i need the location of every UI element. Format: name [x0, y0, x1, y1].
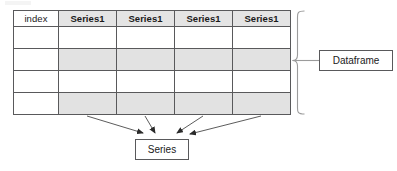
- data-cell: [233, 27, 291, 49]
- data-cell: [233, 49, 291, 71]
- dataframe-label-text: Dataframe: [333, 56, 380, 66]
- data-cell: [175, 49, 233, 71]
- index-cell: [14, 49, 59, 71]
- data-cell: [117, 49, 175, 71]
- data-cell: [59, 71, 117, 93]
- series-arrows: [87, 116, 261, 134]
- dataframe-table: index Series1 Series1 Series1 Series1: [13, 10, 291, 115]
- column-header-series-4: Series1: [233, 11, 291, 27]
- table-row: [14, 71, 291, 93]
- index-cell: [14, 27, 59, 49]
- series-label-text: Series: [148, 145, 176, 155]
- series-arrow-2: [145, 116, 155, 133]
- data-cell: [59, 93, 117, 115]
- data-cell: [233, 93, 291, 115]
- index-cell: [14, 93, 59, 115]
- dataframe-series-diagram: index Series1 Series1 Series1 Series1: [0, 0, 397, 171]
- data-cell: [117, 93, 175, 115]
- data-cell: [59, 27, 117, 49]
- series-label-box: Series: [135, 139, 189, 160]
- data-cell: [117, 71, 175, 93]
- series-arrow-1: [87, 116, 143, 133]
- table-row: [14, 27, 291, 49]
- data-cell: [59, 49, 117, 71]
- table-row: [14, 93, 291, 115]
- data-cell: [175, 27, 233, 49]
- column-header-series-3: Series1: [175, 11, 233, 27]
- data-cell: [117, 27, 175, 49]
- dataframe-label-box: Dataframe: [319, 50, 393, 71]
- scan-artifact: [5, 1, 31, 5]
- table-header-row: index Series1 Series1 Series1 Series1: [14, 11, 291, 27]
- column-header-series-1: Series1: [59, 11, 117, 27]
- column-header-index: index: [14, 11, 59, 27]
- data-cell: [175, 71, 233, 93]
- data-cell: [175, 93, 233, 115]
- series-arrow-3: [177, 116, 203, 133]
- column-header-series-2: Series1: [117, 11, 175, 27]
- data-cell: [233, 71, 291, 93]
- dataframe-bracket: [293, 11, 320, 114]
- index-cell: [14, 71, 59, 93]
- table-row: [14, 49, 291, 71]
- series-arrow-4: [190, 116, 261, 134]
